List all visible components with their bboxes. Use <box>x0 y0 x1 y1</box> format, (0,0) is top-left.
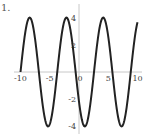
x-tick-label: -10 <box>14 74 27 83</box>
x-tick-label: 10 <box>132 74 142 83</box>
y-tick-label: -2 <box>68 95 76 104</box>
x-tick-label: 5 <box>106 74 111 83</box>
y-tick-label: 4 <box>71 14 76 23</box>
sine-chart: -10-5051042-2-4 <box>0 0 145 136</box>
y-tick-label: -4 <box>68 122 76 131</box>
x-tick-label: -5 <box>46 74 54 83</box>
x-tick-label: 0 <box>77 74 82 83</box>
